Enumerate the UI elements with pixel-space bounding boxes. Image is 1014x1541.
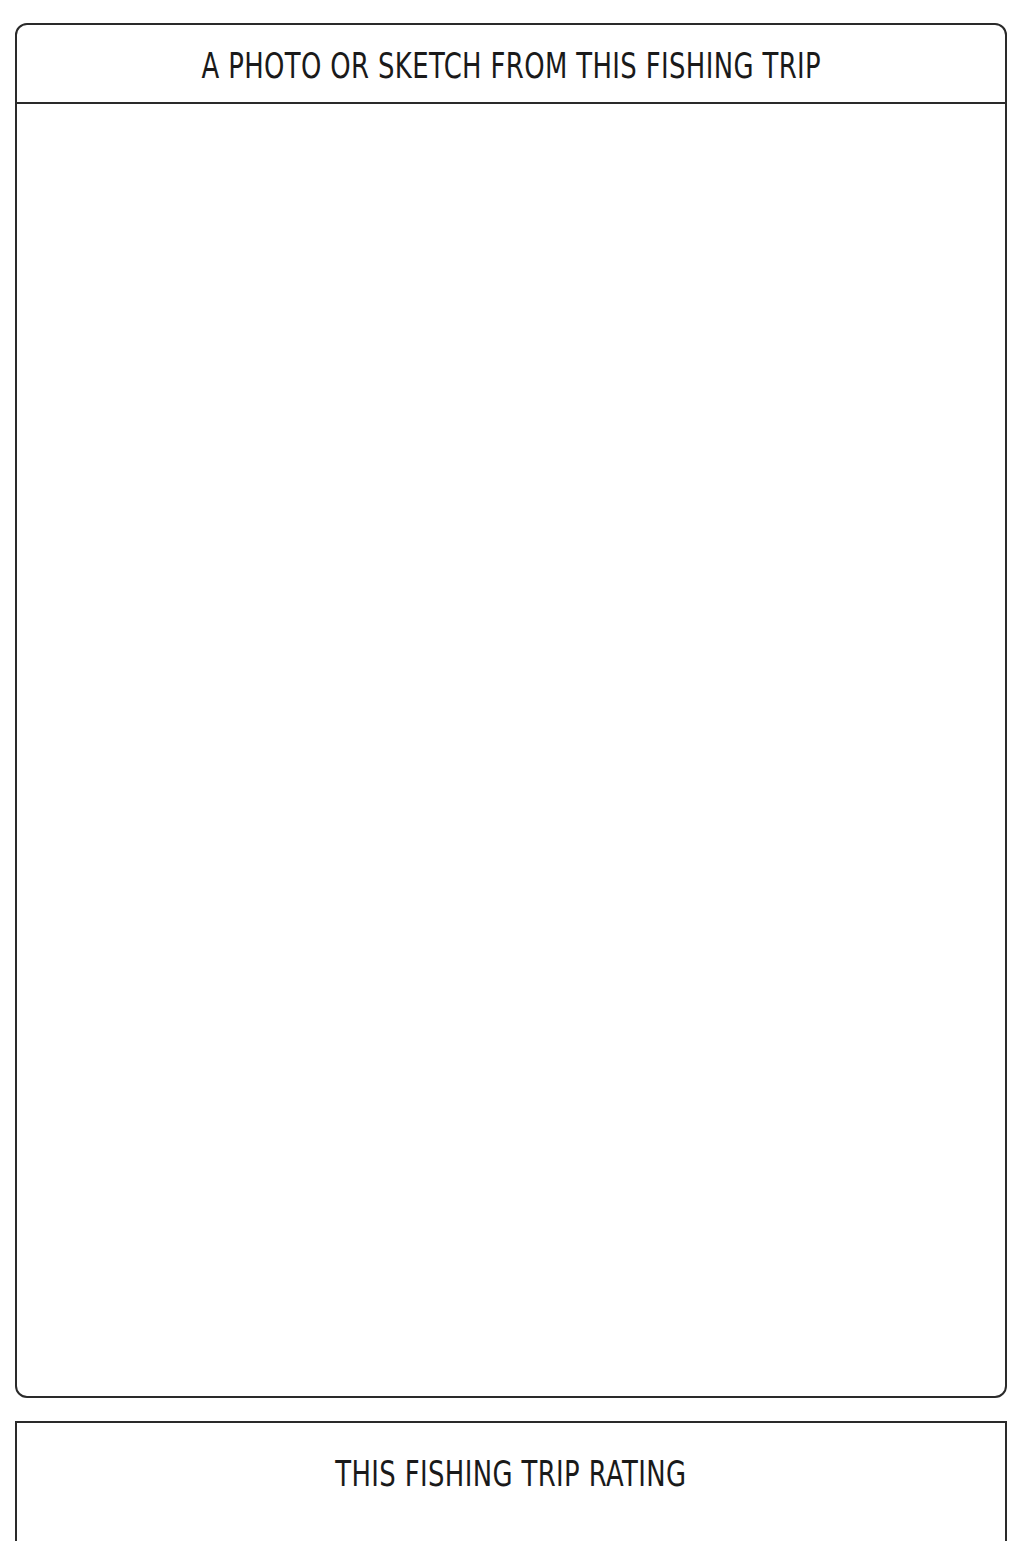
photo-section-title: A PHOTO OR SKETCH FROM THIS FISHING TRIP — [201, 41, 821, 86]
rating-section-header: THIS FISHING TRIP RATING — [17, 1423, 1005, 1494]
trip-rating-box: THIS FISHING TRIP RATING — [15, 1421, 1007, 1541]
photo-sketch-area[interactable] — [17, 104, 1005, 1396]
photo-sketch-box: A PHOTO OR SKETCH FROM THIS FISHING TRIP — [15, 23, 1007, 1398]
rating-section-title: THIS FISHING TRIP RATING — [335, 1449, 686, 1494]
photo-section-header: A PHOTO OR SKETCH FROM THIS FISHING TRIP — [17, 25, 1005, 104]
